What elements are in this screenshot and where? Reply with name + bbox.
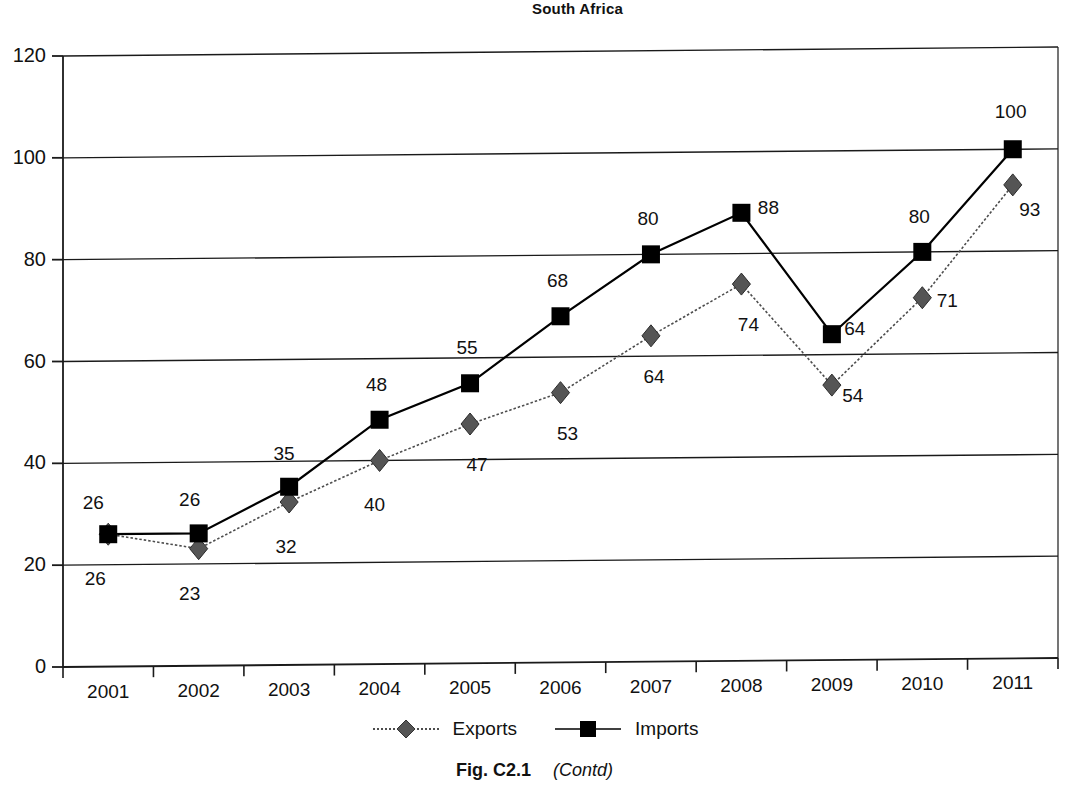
data-point-imports-2001 [99,525,117,543]
data-label-imports-2003: 35 [269,443,299,465]
x-tick-label-2009: 2009 [787,674,877,696]
data-point-exports-2005 [461,413,479,435]
data-point-imports-2008 [732,204,750,222]
data-label-exports-2008: 74 [733,314,763,336]
data-label-exports-2001: 26 [80,568,110,590]
figure-contd: (Contd) [553,760,613,780]
imports-marker-icon [553,718,623,740]
data-label-exports-2002: 23 [175,583,205,605]
x-tick-label-2006: 2006 [516,677,606,699]
data-label-imports-2009: 64 [840,318,870,340]
data-label-exports-2010: 71 [932,290,962,312]
figure-number: Fig. C2.1 [456,760,531,780]
legend-label-exports: Exports [453,718,517,740]
x-tick-label-2004: 2004 [335,678,425,700]
x-tick-label-2002: 2002 [154,680,244,702]
data-label-imports-2004: 48 [362,374,392,396]
data-point-exports-2006 [551,382,569,404]
figure-south-africa-trade: South Africa 020406080100120 20012002200… [0,0,1069,798]
data-point-imports-2011 [1004,140,1022,158]
figure-caption: Fig. C2.1(Contd) [0,760,1069,781]
data-point-exports-2007 [642,325,660,347]
y-tick-label: 20 [0,553,46,576]
data-point-imports-2005 [461,374,479,392]
data-point-imports-2006 [552,307,570,325]
data-point-imports-2010 [913,243,931,261]
gridlines [63,47,1058,565]
chart-legend: Exports Imports [0,718,1069,740]
data-point-exports-2011 [1004,174,1022,196]
y-tick-label: 0 [0,655,46,678]
data-label-imports-2006: 68 [543,270,573,292]
y-tick-label: 40 [0,451,46,474]
data-point-imports-2003 [280,478,298,496]
data-label-imports-2002: 26 [175,489,205,511]
x-tick-label-2007: 2007 [606,676,696,698]
series-line-exports [108,185,1013,549]
data-label-imports-2008: 88 [753,197,783,219]
y-axis-ticks [52,56,63,667]
data-point-imports-2004 [371,411,389,429]
data-point-imports-2007 [642,245,660,263]
data-label-exports-2006: 53 [553,423,583,445]
data-label-exports-2009: 54 [838,385,868,407]
data-label-imports-2001: 26 [78,492,108,514]
data-label-imports-2005: 55 [452,337,482,359]
series-lines [108,149,1013,549]
y-tick-label: 100 [0,146,46,169]
data-label-imports-2010: 80 [904,206,934,228]
y-tick-label: 80 [0,248,46,271]
legend-item-imports[interactable]: Imports [553,718,698,740]
x-tick-label-2010: 2010 [877,673,967,695]
data-label-exports-2011: 93 [1015,199,1045,221]
data-point-imports-2009 [823,325,841,343]
x-tick-label-2011: 2011 [968,672,1058,694]
series-markers [99,140,1022,559]
exports-marker-icon [371,718,441,740]
data-label-exports-2003: 32 [271,536,301,558]
y-tick-label: 60 [0,350,46,373]
data-label-exports-2007: 64 [639,366,669,388]
data-label-imports-2011: 100 [995,101,1025,123]
legend-label-imports: Imports [635,718,698,740]
x-tick-label-2008: 2008 [696,675,786,697]
y-tick-label: 120 [0,44,46,67]
data-label-exports-2005: 47 [462,454,492,476]
x-tick-label-2005: 2005 [425,677,515,699]
legend-item-exports[interactable]: Exports [371,718,517,740]
x-tick-label-2003: 2003 [244,679,334,701]
x-tick-label-2001: 2001 [63,681,153,703]
data-point-imports-2002 [190,524,208,542]
data-point-exports-2004 [371,449,389,471]
data-label-imports-2007: 80 [633,208,663,230]
data-label-exports-2004: 40 [360,494,390,516]
